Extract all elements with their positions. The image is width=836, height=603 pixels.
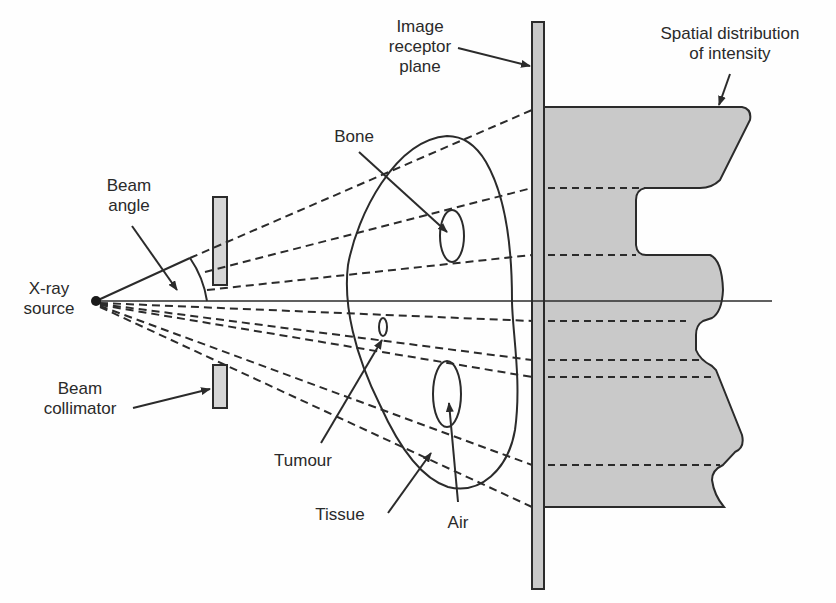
collimator-top — [213, 197, 227, 285]
beam-collimator-label-line1: Beam — [30, 379, 130, 399]
beam-collimator-label: Beam collimator — [30, 379, 130, 419]
xray-source-label: X-ray source — [14, 279, 84, 319]
spatial-distribution-label: Spatial distribution of intensity — [640, 24, 820, 64]
beam-angle-label: Beam angle — [94, 176, 164, 216]
image-receptor-label-line2: receptor — [380, 37, 460, 57]
diagram-svg — [0, 0, 836, 603]
bone-ellipse — [440, 210, 464, 262]
spatial-distribution-label-line1: Spatial distribution — [640, 24, 820, 44]
image-receptor-plane — [532, 22, 544, 589]
tissue-label: Tissue — [310, 505, 370, 525]
image-receptor-label-line1: Image — [380, 17, 460, 37]
tissue-outline — [347, 136, 518, 488]
bone-label: Bone — [326, 127, 382, 147]
beam-edge-line — [96, 258, 190, 301]
tumour-ellipse — [379, 318, 387, 336]
intensity-profile — [544, 107, 750, 507]
xray-source-label-line2: source — [14, 299, 84, 319]
air-ellipse — [433, 361, 461, 427]
tumour-label: Tumour — [268, 451, 338, 471]
beam-angle-label-line1: Beam — [94, 176, 164, 196]
xray-diagram: X-ray source Beam angle Beam collimator … — [0, 0, 836, 603]
image-receptor-label: Image receptor plane — [380, 17, 460, 77]
beam-angle-arc — [190, 258, 207, 301]
air-label: Air — [440, 513, 476, 533]
xray-source-label-line1: X-ray — [14, 279, 84, 299]
collimator-bottom — [213, 365, 227, 408]
spatial-distribution-label-line2: of intensity — [640, 44, 820, 64]
beam-rays — [100, 110, 532, 507]
beam-collimator-label-line2: collimator — [30, 399, 130, 419]
xray-source-dot — [91, 296, 101, 306]
beam-angle-label-line2: angle — [94, 196, 164, 216]
image-receptor-label-line3: plane — [380, 57, 460, 77]
